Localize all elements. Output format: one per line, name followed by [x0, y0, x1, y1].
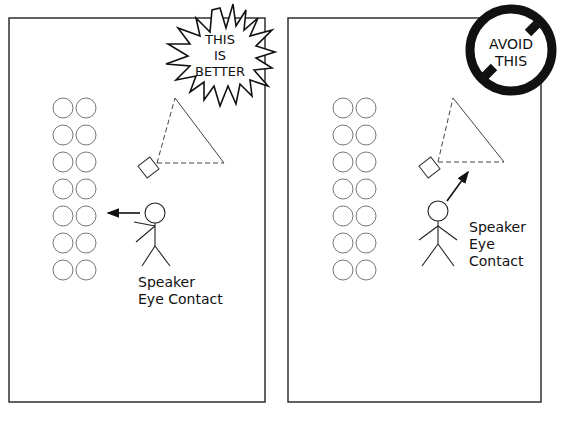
camera-field-of-view [157, 98, 224, 163]
badge-line-2: THIS [494, 53, 527, 69]
gaze-arrow-to-camera [447, 172, 468, 201]
badge-line-1: THIS [204, 32, 235, 47]
badge-line-1: AVOID [489, 36, 533, 52]
audience-seats [333, 98, 376, 280]
prohibition-sign-badge: AVOID THIS [470, 9, 552, 91]
camera-icon [419, 157, 440, 178]
speaker-label-line-1: Speaker [469, 219, 526, 235]
audience-seats [53, 98, 96, 280]
speaker-label-line-2: Eye [469, 236, 495, 252]
left-panel: Speaker Eye Contact THIS IS BETTER [9, 4, 275, 402]
camera-icon [138, 157, 159, 178]
speaker-label-line-2: Eye Contact [138, 291, 223, 307]
right-panel: Speaker Eye Contact AVOID THIS [288, 9, 552, 402]
badge-line-3: BETTER [195, 64, 245, 79]
speaker-label-line-1: Speaker [138, 274, 195, 290]
camera-field-of-view [438, 98, 504, 162]
badge-line-2: IS [214, 48, 226, 63]
starburst-badge: THIS IS BETTER [166, 4, 275, 106]
speaker-stick-figure [419, 201, 457, 266]
speaker-label-line-3: Contact [469, 253, 524, 269]
diagram-canvas: Speaker Eye Contact THIS IS BETTER [0, 0, 570, 424]
